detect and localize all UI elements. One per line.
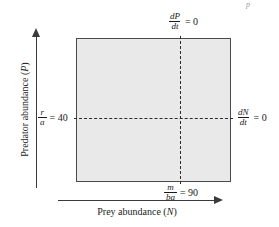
prey-isocline-numerator: dN [236, 108, 251, 117]
x-equilibrium-numerator: m [165, 183, 176, 192]
predator-isocline-denominator: dt [169, 21, 180, 31]
prey-isocline-rest: = 0 [254, 113, 267, 123]
y-equilibrium-numerator: r [38, 108, 46, 117]
predator-isocline-label: dP dt = 0 [154, 12, 212, 32]
y-axis-title: Predator abundance (P) [19, 30, 30, 190]
predator-isocline-equation: dP dt = 0 [168, 12, 198, 32]
prey-isocline-denominator: dt [238, 117, 249, 127]
y-equilibrium-equation: r a = 40 [38, 108, 68, 128]
prey-isocline-equation: dN dt = 0 [236, 108, 267, 128]
predator-isocline-dashed-line [180, 36, 181, 184]
y-equilibrium-label: r a = 40 [38, 108, 68, 128]
y-axis-arrow-icon [32, 28, 40, 37]
y-axis-variable: P [19, 66, 30, 72]
plot-area [76, 38, 231, 182]
y-axis-line [36, 36, 37, 188]
x-equilibrium-denominator: ba [164, 192, 177, 202]
x-axis-variable: N [167, 206, 174, 217]
x-axis-title-text: Prey abundance [97, 206, 161, 217]
x-equilibrium-label: m ba = 90 [152, 183, 210, 203]
y-equilibrium-denominator: a [38, 117, 47, 127]
x-axis-variable-wrap: (N) [161, 206, 177, 217]
x-equilibrium-value: = 90 [180, 188, 198, 198]
y-axis-variable-wrap: (P) [19, 62, 30, 77]
y-axis-title-text: Predator abundance [19, 78, 30, 157]
predator-isocline-numerator: dP [168, 12, 182, 21]
prey-isocline-label: dN dt = 0 [236, 108, 267, 128]
page-text-artifact: p [246, 0, 250, 9]
prey-isocline-fraction: dN dt [236, 108, 251, 128]
predator-isocline-rest: = 0 [185, 17, 198, 27]
y-equilibrium-value: = 40 [50, 113, 68, 123]
x-equilibrium-equation: m ba = 90 [164, 183, 198, 203]
x-axis-title: Prey abundance (N) [58, 206, 216, 217]
prey-isocline-dashed-line [74, 118, 233, 119]
predator-isocline-fraction: dP dt [168, 12, 182, 32]
phase-plane-figure: p Predator abundance (P) Prey abundance … [0, 0, 279, 227]
y-equilibrium-fraction: r a [38, 108, 47, 128]
x-equilibrium-fraction: m ba [164, 183, 177, 203]
x-axis-arrow-icon [214, 196, 223, 204]
